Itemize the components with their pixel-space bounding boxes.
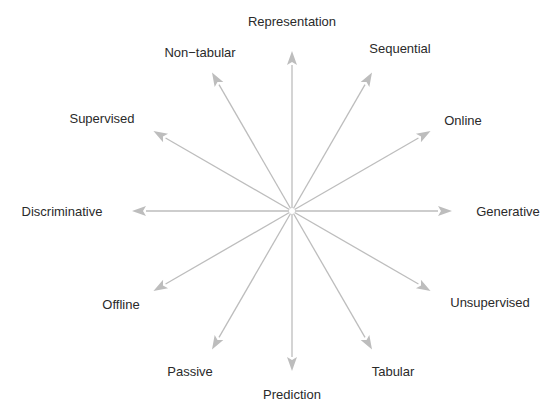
label-offline: Offline [102, 297, 139, 312]
axis-line [292, 211, 365, 337]
arrowhead-icon [416, 131, 431, 142]
axis-line [219, 211, 292, 337]
arrowhead-icon [153, 131, 168, 142]
label-generative: Generative [476, 204, 540, 219]
center-point [289, 208, 295, 214]
label-representation: Representation [248, 14, 336, 29]
axis-labels: Representation Sequential Online Generat… [22, 14, 540, 402]
radial-axes-diagram: Representation Sequential Online Generat… [0, 0, 557, 413]
arrowhead-icon [361, 335, 372, 350]
label-online: Online [444, 113, 482, 128]
axis-line [292, 85, 365, 211]
label-non-tabular: Non−tabular [164, 45, 236, 60]
label-unsupervised: Unsupervised [450, 295, 530, 310]
axis-line [166, 138, 292, 211]
arrowhead-icon [287, 51, 297, 65]
axis-line [166, 211, 292, 284]
label-prediction: Prediction [263, 387, 321, 402]
arrowhead-icon [438, 206, 452, 216]
label-discriminative: Discriminative [22, 204, 103, 219]
label-supervised: Supervised [69, 111, 134, 126]
label-sequential: Sequential [369, 41, 431, 56]
arrowhead-icon [361, 72, 372, 87]
axis-line [292, 211, 418, 284]
label-tabular: Tabular [372, 364, 415, 379]
arrowhead-icon [153, 280, 168, 291]
label-passive: Passive [167, 364, 213, 379]
arrowhead-icon [212, 72, 223, 87]
arrowhead-icon [132, 206, 146, 216]
arrowhead-icon [212, 335, 223, 350]
axis-line [219, 85, 292, 211]
arrowhead-icon [287, 357, 297, 371]
axis-arrows [132, 51, 452, 371]
axis-line [292, 138, 418, 211]
arrowhead-icon [416, 280, 431, 291]
